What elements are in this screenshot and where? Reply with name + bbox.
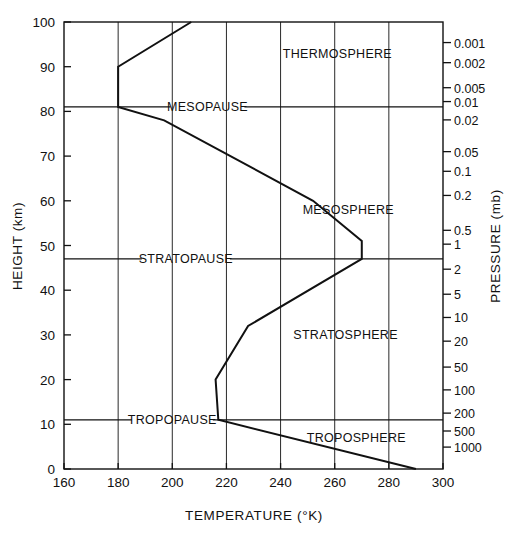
pressure-tick-label: 100 [454, 384, 475, 398]
y-tick-label: 40 [40, 283, 55, 298]
x-axis-title: TEMPERATURE (°K) [185, 508, 323, 523]
pause-labels: TROPOPAUSESTRATOPAUSEMESOPAUSE [128, 100, 248, 427]
pressure-tick-label: 0.1 [454, 165, 471, 179]
pressure-tick-label: 1 [454, 238, 461, 252]
pressure-tick-label: 20 [454, 335, 468, 349]
x-tick-label: 280 [378, 475, 401, 490]
y-axis-title: HEIGHT (km) [10, 202, 25, 290]
x-tick-label: 180 [107, 475, 130, 490]
y-tick-label: 10 [40, 417, 55, 432]
y-axis-ticks: 0102030405060708090100 [32, 15, 71, 477]
pause-boundary-lines [64, 107, 443, 420]
x-tick-label: 200 [161, 475, 184, 490]
x-axis-ticks: 160180200220240260280300 [53, 463, 455, 490]
pressure-tick-label: 0.05 [454, 146, 478, 160]
pause-label-stratopause: STRATOPAUSE [139, 252, 233, 266]
x-tick-label: 240 [269, 475, 292, 490]
y-tick-label: 80 [40, 104, 55, 119]
pressure-tick-label: 200 [454, 407, 475, 421]
layer-label-thermosphere: THERMOSPHERE [283, 47, 392, 61]
pressure-tick-label: 500 [454, 425, 475, 439]
layer-label-stratosphere: STRATOSPHERE [293, 328, 398, 342]
pressure-tick-label: 0.002 [454, 57, 485, 71]
pressure-tick-label: 0.01 [454, 96, 478, 110]
pressure-axis-title: PRESSURE (mb) [488, 189, 503, 303]
y-tick-label: 100 [32, 15, 55, 30]
x-tick-label: 220 [215, 475, 238, 490]
chart-canvas: 160180200220240260280300 010203040506070… [0, 0, 519, 537]
atmosphere-temperature-profile-figure: 160180200220240260280300 010203040506070… [0, 0, 519, 537]
layer-label-mesosphere: MESOSPHERE [303, 203, 394, 217]
y-tick-label: 20 [40, 373, 55, 388]
x-tick-label: 300 [432, 475, 455, 490]
pressure-tick-label: 0.005 [454, 82, 485, 96]
pressure-tick-label: 2 [454, 263, 461, 277]
plot-frame [64, 22, 443, 469]
pressure-tick-label: 0.5 [454, 224, 471, 238]
pressure-tick-label: 10 [454, 311, 468, 325]
pause-label-tropopause: TROPOPAUSE [128, 413, 217, 427]
y-tick-label: 60 [40, 194, 55, 209]
pressure-tick-label: 0.001 [454, 37, 485, 51]
plot-frame-rect [64, 22, 443, 469]
y-tick-label: 70 [40, 149, 55, 164]
layer-label-troposphere: TROPOSPHERE [307, 431, 406, 445]
y-tick-label: 0 [47, 462, 55, 477]
grid-lines [118, 22, 389, 469]
pressure-tick-label: 0.2 [454, 189, 471, 203]
pressure-tick-label: 5 [454, 288, 461, 302]
pressure-tick-label: 0.02 [454, 114, 478, 128]
pressure-axis-ticks: 0.0010.0020.0050.010.020.050.10.20.51251… [443, 37, 485, 456]
y-tick-label: 50 [40, 239, 55, 254]
temperature-curve [118, 22, 416, 469]
pause-label-mesopause: MESOPAUSE [167, 100, 248, 114]
temperature-profile-line [118, 22, 416, 469]
x-tick-label: 160 [53, 475, 76, 490]
y-tick-label: 30 [40, 328, 55, 343]
x-tick-label: 260 [323, 475, 346, 490]
pressure-tick-label: 50 [454, 361, 468, 375]
y-tick-label: 90 [40, 60, 55, 75]
pressure-tick-label: 1000 [454, 441, 482, 455]
